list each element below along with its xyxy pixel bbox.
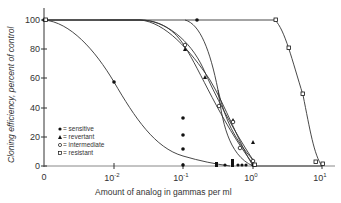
svg-text:100: 100 [244, 172, 258, 183]
svg-text:= resistant: = resistant [63, 149, 93, 156]
y-axis-title: Cloning efficiency, percent of control [6, 26, 16, 163]
svg-text:20: 20 [30, 132, 40, 142]
curve-resistant [100, 20, 322, 166]
curve-intermediate-3 [218, 90, 253, 160]
svg-text:= revertant: = revertant [63, 133, 94, 140]
x-axis-title: Amount of analog in gammas per ml [95, 187, 232, 197]
legend: = sensitive = revertant = intermediate =… [58, 125, 105, 156]
chart: 100 80 60 40 20 0 0 10-2 10-1 100 101 Am… [0, 0, 341, 203]
svg-text:80: 80 [30, 44, 40, 54]
svg-text:40: 40 [30, 103, 40, 113]
x-tick-labels: 0 10-2 10-1 100 101 [41, 172, 327, 183]
svg-text:= sensitive: = sensitive [63, 125, 94, 132]
y-tick-labels: 100 80 60 40 20 0 [25, 15, 40, 171]
svg-text:101: 101 [313, 172, 327, 183]
svg-text:100: 100 [25, 15, 40, 25]
markers-intermediate [183, 43, 255, 163]
svg-text:10-1: 10-1 [173, 172, 189, 183]
svg-text:60: 60 [30, 73, 40, 83]
svg-text:0: 0 [41, 172, 46, 182]
svg-text:0: 0 [35, 161, 40, 171]
svg-text:10-2: 10-2 [104, 172, 120, 183]
svg-text:= intermediate: = intermediate [63, 141, 105, 148]
